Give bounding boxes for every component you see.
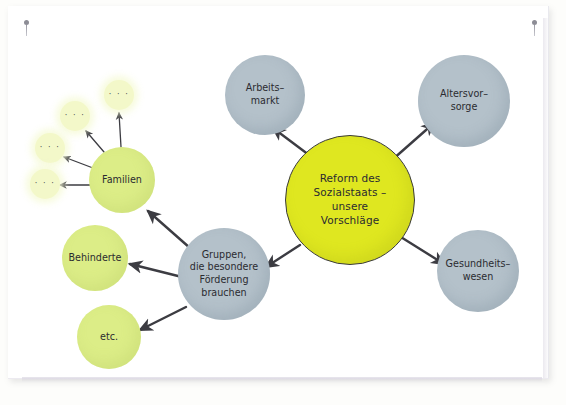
node-label-gesundheitswesen: Gesundheits–wesen xyxy=(442,258,515,283)
node-etc[interactable]: etc. xyxy=(77,305,141,369)
node-altersvorsorge[interactable]: Altersvor–sorge xyxy=(418,55,510,147)
node-label-arbeitsmarkt: Arbeits–markt xyxy=(242,82,289,107)
node-label-altersvorsorge: Altersvor–sorge xyxy=(436,88,492,113)
node-label-familien: Familien xyxy=(98,174,146,187)
arrow-gruppen-to-behinderte xyxy=(130,264,182,277)
arrow-center-to-gruppen xyxy=(266,245,300,267)
node-label-dots-1: · · · xyxy=(105,90,134,101)
node-dots-3[interactable]: · · · xyxy=(35,133,65,163)
arrow-familien-to-dots-2 xyxy=(86,131,104,152)
node-label-etc: etc. xyxy=(96,331,122,344)
node-label-dots-4: · · · xyxy=(31,179,60,190)
node-behinderte[interactable]: Behinderte xyxy=(62,225,128,291)
arrow-center-to-gesundheitswesen xyxy=(396,234,444,264)
node-arbeitsmarkt[interactable]: Arbeits–markt xyxy=(225,55,305,135)
node-familien[interactable]: Familien xyxy=(89,147,155,213)
arrow-familien-to-dots-1 xyxy=(119,113,121,147)
node-label-dots-2: · · · xyxy=(61,111,90,122)
node-dots-4[interactable]: · · · xyxy=(30,169,60,199)
node-gruppen-besondere-foerderung[interactable]: Gruppen,die besondereFörderungbrauchen xyxy=(178,228,270,320)
node-reform-des-sozialstaats[interactable]: Reform desSozialstaats –unsereVorschläge xyxy=(285,135,415,265)
node-gesundheitswesen[interactable]: Gesundheits–wesen xyxy=(437,230,519,312)
mindmap-canvas: Reform desSozialstaats –unsereVorschläge… xyxy=(0,0,566,405)
arrow-gruppen-to-etc xyxy=(140,307,186,330)
node-label-dots-3: · · · xyxy=(36,143,65,154)
node-label-reform-des-sozialstaats: Reform desSozialstaats –unsereVorschläge xyxy=(310,172,391,227)
node-dots-1[interactable]: · · · xyxy=(104,80,134,110)
node-dots-2[interactable]: · · · xyxy=(60,101,90,131)
arrow-gruppen-to-familien xyxy=(148,211,190,248)
pin-top-left-icon xyxy=(24,20,29,36)
node-label-behinderte: Behinderte xyxy=(65,252,126,265)
node-label-gruppen-besondere-foerderung: Gruppen,die besondereFörderungbrauchen xyxy=(186,249,262,300)
pin-top-right-icon xyxy=(532,20,537,36)
arrow-familien-to-dots-3 xyxy=(64,157,93,168)
